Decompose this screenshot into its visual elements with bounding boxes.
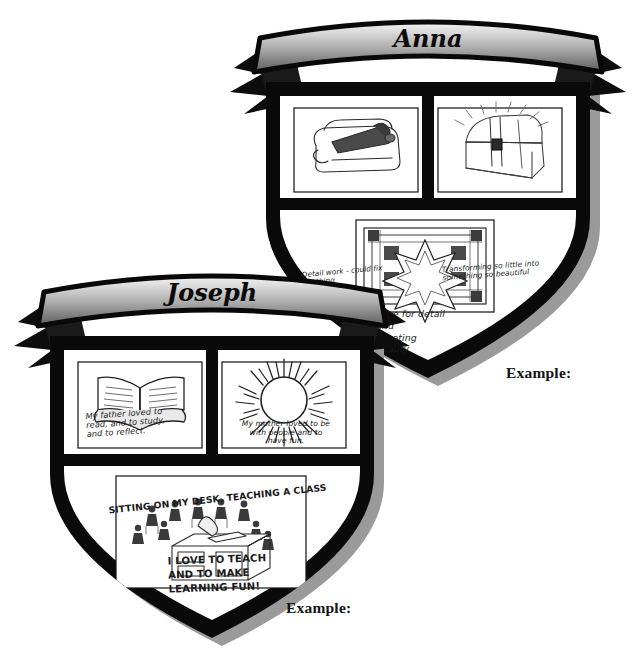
divider-vertical [206, 350, 218, 460]
crest-joseph-graphic [12, 256, 412, 646]
worksheet-canvas: Anna Detail work - could fix anything Tr… [0, 0, 636, 660]
crest-joseph: Joseph My father loved to read, and to s… [12, 256, 412, 646]
example-label-anna: Example: [506, 364, 571, 382]
example-label-joseph: Example: [286, 599, 351, 617]
banner-joseph [38, 276, 386, 326]
banner-anna [254, 22, 602, 72]
divider-horizontal [64, 454, 360, 466]
divider-vertical [422, 96, 434, 204]
divider-horizontal [280, 198, 576, 210]
